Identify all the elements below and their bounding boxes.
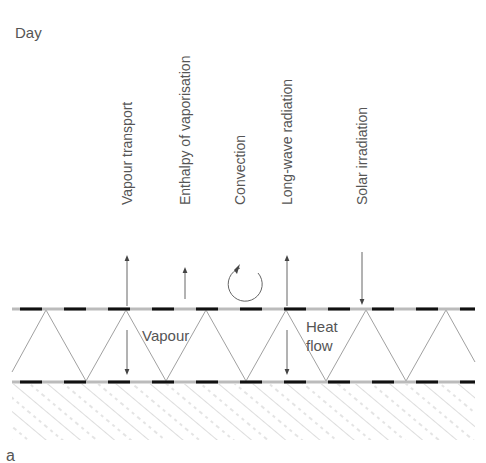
ground-hatch — [12, 384, 475, 440]
convection-arrowhead-icon — [234, 264, 240, 274]
convection-circle-icon — [228, 268, 262, 301]
label-enthalpy: Enthalpy of vaporisation — [177, 56, 193, 205]
heat-label: Heat — [306, 318, 339, 335]
label-solar: Solar irradiation — [354, 107, 370, 205]
day-title: Day — [15, 24, 42, 41]
label-convection: Convection — [232, 135, 248, 205]
diagram-canvas: Day a Vapour transport Enthalpy of vapor… — [0, 0, 486, 463]
label-longwave: Long-wave radiation — [279, 79, 295, 205]
vapour-label: Vapour — [142, 327, 189, 344]
label-vapour-transport: Vapour transport — [119, 102, 135, 205]
spacer-zigzag — [12, 310, 475, 381]
panel-label: a — [6, 447, 15, 463]
flow-label: flow — [306, 337, 333, 354]
